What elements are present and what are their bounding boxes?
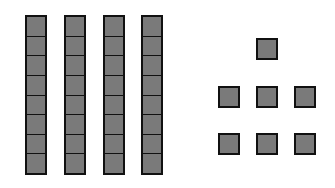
rod-unit-segment <box>27 114 45 134</box>
rod-unit-segment <box>27 95 45 115</box>
rod-block <box>64 15 86 175</box>
rod-unit-segment <box>105 95 123 115</box>
rod-unit-segment <box>143 55 161 75</box>
rod-unit-segment <box>66 17 84 36</box>
rod-unit-segment <box>27 134 45 154</box>
rod-unit-segment <box>143 134 161 154</box>
single-unit-block <box>294 86 316 108</box>
rod-unit-segment <box>143 153 161 173</box>
rod-unit-segment <box>27 36 45 56</box>
single-unit-block <box>218 86 240 108</box>
rod-unit-segment <box>66 134 84 154</box>
rod-unit-segment <box>143 75 161 95</box>
single-unit-block <box>294 133 316 155</box>
rod-unit-segment <box>105 36 123 56</box>
rod-unit-segment <box>143 95 161 115</box>
rod-unit-segment <box>66 114 84 134</box>
rod-unit-segment <box>105 114 123 134</box>
single-unit-block <box>256 86 278 108</box>
rod-unit-segment <box>143 17 161 36</box>
rod-block <box>25 15 47 175</box>
rod-block <box>103 15 125 175</box>
rod-unit-segment <box>105 75 123 95</box>
rod-unit-segment <box>27 17 45 36</box>
single-unit-block <box>256 38 278 60</box>
rod-unit-segment <box>143 36 161 56</box>
rod-unit-segment <box>105 17 123 36</box>
rod-unit-segment <box>27 75 45 95</box>
rod-block <box>141 15 163 175</box>
rod-unit-segment <box>27 55 45 75</box>
rod-unit-segment <box>27 153 45 173</box>
rod-unit-segment <box>66 75 84 95</box>
rod-unit-segment <box>105 153 123 173</box>
single-unit-block <box>256 133 278 155</box>
single-unit-block <box>218 133 240 155</box>
rod-unit-segment <box>66 153 84 173</box>
rod-unit-segment <box>66 36 84 56</box>
rod-unit-segment <box>66 95 84 115</box>
rod-unit-segment <box>105 55 123 75</box>
rod-unit-segment <box>66 55 84 75</box>
rod-unit-segment <box>105 134 123 154</box>
rod-unit-segment <box>143 114 161 134</box>
